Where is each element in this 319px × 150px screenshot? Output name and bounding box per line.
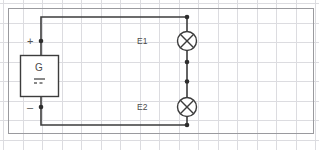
wire-bottom [41, 107, 187, 125]
lamp-e1-label: E1 [137, 37, 148, 46]
circuit-diagram-canvas: E1 E2 G + – [0, 0, 319, 150]
circuit-schematic [0, 0, 319, 150]
lamp-e2-label: E2 [137, 103, 148, 112]
node-top-right [185, 15, 190, 20]
positive-terminal-label: + [27, 36, 34, 47]
node-between-lamps-lower [185, 79, 190, 84]
generator-label: G [35, 63, 43, 73]
node-between-lamps-upper [185, 60, 190, 65]
lamp-e2-symbol [178, 98, 197, 117]
node-bottom-right [185, 123, 190, 128]
lamp-e1-symbol [178, 32, 197, 51]
node-negative-terminal [39, 105, 44, 110]
negative-terminal-label: – [27, 102, 33, 113]
wire-top [41, 17, 187, 41]
node-positive-terminal [39, 39, 44, 44]
